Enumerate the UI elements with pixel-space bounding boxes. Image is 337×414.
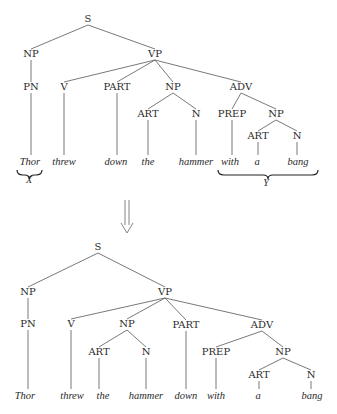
leaf-word-the: the	[97, 390, 110, 401]
node-adv: ADV	[250, 319, 274, 330]
tree-edge	[127, 330, 146, 347]
tree-edge	[165, 298, 262, 320]
leaf-word-thor: Thor	[15, 390, 36, 401]
tree-before-transformation: SNPVPPNVPARTNPADVARTNPREPNPARTNThorthrew…	[17, 13, 318, 188]
node-v: V	[66, 318, 75, 329]
leaf-word-bang: bang	[302, 390, 323, 401]
tree-after-transformation: SNPVPPNVNPPARTADVARTNPREPNPARTNThorthrew…	[15, 241, 323, 401]
node-art: ART	[136, 108, 159, 119]
leaf-word-threw: threw	[52, 156, 76, 167]
double-down-arrow-icon	[121, 200, 133, 233]
tree-edge	[117, 60, 155, 82]
leaf-word-a: a	[255, 390, 260, 401]
node-v: V	[59, 81, 68, 92]
node-pn: PN	[20, 318, 36, 329]
node-n: N	[293, 130, 302, 141]
node-n: N	[142, 346, 151, 357]
node-s: S	[95, 241, 102, 252]
tree-edge	[99, 330, 127, 347]
tree-edge	[28, 253, 98, 287]
node-np: NP	[165, 81, 181, 92]
tree-edge	[127, 298, 165, 319]
variable-label-x: X	[25, 174, 33, 185]
tree-edge	[31, 25, 88, 49]
node-np: NP	[23, 48, 39, 59]
node-art: ART	[87, 346, 110, 357]
tree-edge	[98, 253, 165, 287]
node-part: PART	[172, 319, 199, 330]
node-n: N	[192, 108, 201, 119]
tree-edge	[216, 331, 262, 347]
variable-label-y: Y	[263, 177, 270, 188]
leaf-word-threw: threw	[60, 390, 84, 401]
tree-edge	[262, 331, 283, 347]
leaf-word-thor: Thor	[20, 156, 41, 167]
leaf-word-hammer: hammer	[129, 390, 164, 401]
node-np: NP	[20, 286, 36, 297]
node-part: PART	[103, 81, 130, 92]
node-art: ART	[247, 369, 270, 380]
tree-edge	[241, 93, 276, 109]
node-adv: ADV	[229, 81, 253, 92]
transformation-arrow	[121, 200, 133, 233]
leaf-word-down: down	[175, 390, 198, 401]
node-prep: PREP	[218, 108, 247, 119]
tree-edge	[173, 93, 196, 109]
leaf-word-hammer: hammer	[179, 156, 214, 167]
tree-edge	[64, 60, 155, 82]
node-art: ART	[246, 130, 269, 141]
tree-edge	[88, 25, 155, 49]
tree-edge	[232, 93, 241, 109]
node-n: N	[307, 369, 316, 380]
node-s: S	[85, 13, 92, 24]
tree-edge	[71, 298, 165, 319]
leaf-word-with: with	[207, 390, 225, 401]
node-np: NP	[119, 318, 135, 329]
leaf-word-the: the	[142, 156, 155, 167]
node-np: NP	[275, 346, 291, 357]
node-prep: PREP	[202, 346, 231, 357]
leaf-word-bang: bang	[288, 156, 309, 167]
tree-edge	[148, 93, 173, 109]
tree-edge	[165, 298, 186, 320]
syntax-tree-diagram: SNPVPPNVPARTNPADVARTNPREPNPARTNThorthrew…	[0, 0, 337, 414]
leaf-word-with: with	[221, 156, 239, 167]
tree-edge	[155, 60, 173, 82]
node-vp: VP	[147, 48, 162, 59]
node-np: NP	[268, 108, 284, 119]
node-pn: PN	[23, 81, 39, 92]
tree-edge	[155, 60, 241, 82]
node-vp: VP	[157, 286, 172, 297]
leaf-word-a: a	[254, 156, 259, 167]
leaf-word-down: down	[105, 156, 128, 167]
